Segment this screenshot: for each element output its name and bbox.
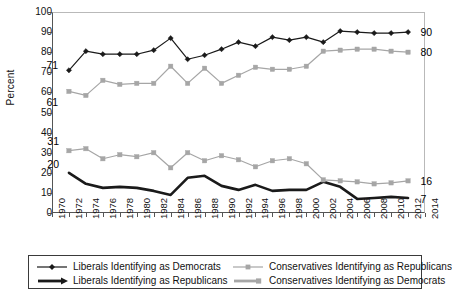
series-marker-3	[406, 179, 410, 183]
x-tick-mark	[391, 213, 392, 217]
x-tick-mark	[374, 213, 375, 217]
x-tick-label: 1984	[175, 198, 186, 219]
x-tick-mark	[306, 213, 307, 217]
x-axis: 1970197219741976197819801982198419861988…	[0, 213, 450, 253]
series-marker-3	[118, 153, 122, 157]
x-tick-mark	[137, 213, 138, 217]
x-tick-mark	[408, 213, 409, 217]
series-marker-0	[372, 31, 377, 36]
x-tick-mark	[340, 213, 341, 217]
x-tick-label: 1978	[124, 198, 135, 219]
series-marker-3	[84, 146, 88, 150]
x-tick-label: 1998	[293, 198, 304, 219]
series-marker-3	[270, 159, 274, 163]
series-marker-1	[101, 78, 105, 82]
series-marker-3	[253, 165, 257, 169]
series-marker-0	[100, 52, 105, 57]
x-tick-mark	[272, 213, 273, 217]
x-tick-label: 1988	[209, 198, 220, 219]
x-tick-label: 2010	[395, 198, 406, 219]
series-marker-1	[406, 50, 410, 54]
series-marker-3	[287, 157, 291, 161]
series-marker-1	[253, 65, 257, 69]
x-tick-label: 1990	[226, 198, 237, 219]
x-tick-label: 1980	[141, 198, 152, 219]
series-marker-3	[101, 157, 105, 161]
series-marker-1	[219, 81, 223, 85]
x-tick-label: 1986	[192, 198, 203, 219]
legend-row: Liberals Identifying as DemocratsConserv…	[29, 259, 423, 274]
series-marker-1	[304, 64, 308, 68]
legend-label: Liberals Identifying as Democrats	[73, 261, 221, 272]
x-tick-mark	[171, 213, 172, 217]
x-tick-label: 2006	[361, 198, 372, 219]
series-marker-3	[185, 151, 189, 155]
x-tick-label: 1974	[90, 198, 101, 219]
x-tick-label: 2002	[327, 198, 338, 219]
series-marker-0	[355, 30, 360, 35]
series-marker-1	[202, 66, 206, 70]
x-tick-label: 1972	[73, 198, 84, 219]
value-label: 16	[421, 175, 433, 187]
legend-item[interactable]: Liberals Identifying as Republicans	[29, 273, 229, 288]
value-label: 80	[421, 46, 433, 58]
x-tick-mark	[255, 213, 256, 217]
series-marker-1	[236, 73, 240, 77]
legend-row: Liberals Identifying as RepublicansConse…	[29, 273, 423, 288]
series-marker-3	[219, 154, 223, 158]
series-marker-0	[304, 35, 309, 40]
x-tick-mark	[86, 213, 87, 217]
series-marker-0	[270, 35, 275, 40]
series-marker-0	[219, 47, 224, 52]
series-marker-1	[355, 47, 359, 51]
value-label: 61	[46, 96, 58, 108]
series-marker-3	[338, 179, 342, 183]
legend-item[interactable]: Conservatives Identifying as Republicans	[229, 259, 423, 274]
value-label: 20	[47, 158, 59, 170]
series-marker-1	[287, 67, 291, 71]
x-tick-mark	[103, 213, 104, 217]
x-tick-mark	[222, 213, 223, 217]
x-tick-mark	[52, 213, 53, 217]
series-marker-1	[185, 81, 189, 85]
x-tick-mark	[120, 213, 121, 217]
legend-label: Conservatives Identifying as Democrats	[269, 275, 445, 286]
series-marker-0	[388, 31, 393, 36]
series-marker-0	[236, 40, 241, 45]
legend-item[interactable]: Liberals Identifying as Democrats	[29, 259, 229, 274]
x-tick-mark	[69, 213, 70, 217]
series-marker-1	[389, 49, 393, 53]
value-label: 71	[46, 59, 58, 71]
series-marker-3	[355, 180, 359, 184]
value-label: 31	[47, 135, 59, 147]
value-label: 7	[421, 193, 427, 205]
x-tick-mark	[289, 213, 290, 217]
chart-legend: Liberals Identifying as DemocratsConserv…	[28, 255, 422, 289]
series-marker-0	[287, 38, 292, 43]
series-marker-3	[321, 178, 325, 182]
x-tick-mark	[425, 213, 426, 217]
x-tick-label: 2004	[344, 198, 355, 219]
series-marker-0	[202, 53, 207, 58]
chart-canvas: Percent 0102030405060708090100 197019721…	[0, 0, 450, 248]
series-marker-1	[321, 49, 325, 53]
x-tick-label: 1994	[259, 198, 270, 219]
legend-label: Liberals Identifying as Republicans	[73, 275, 228, 286]
series-marker-1	[168, 64, 172, 68]
legend-item[interactable]: Conservatives Identifying as Democrats	[229, 273, 423, 288]
legend-label: Conservatives Identifying as Republicans	[269, 261, 452, 272]
series-marker-1	[118, 82, 122, 86]
legend-marker-icon	[231, 261, 265, 273]
series-marker-1	[338, 48, 342, 52]
x-tick-label: 2000	[310, 198, 321, 219]
series-marker-1	[135, 81, 139, 85]
series-marker-1	[270, 67, 274, 71]
x-tick-mark	[323, 213, 324, 217]
legend-marker-icon	[35, 275, 69, 287]
x-tick-mark	[188, 213, 189, 217]
series-marker-0	[117, 52, 122, 57]
series-marker-3	[372, 182, 376, 186]
series-marker-0	[405, 30, 410, 35]
x-tick-label: 2008	[378, 198, 389, 219]
